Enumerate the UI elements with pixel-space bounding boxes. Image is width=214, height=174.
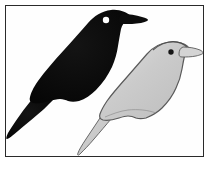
bird-silhouette-plate — [6, 6, 203, 156]
plate-frame — [5, 5, 204, 157]
dark-bird-eye-icon — [103, 17, 109, 23]
figure-root — [0, 0, 214, 174]
light-bird-eye-icon — [168, 49, 173, 54]
